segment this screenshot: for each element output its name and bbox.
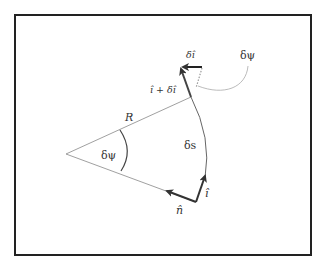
- figure-frame: [15, 15, 311, 255]
- label-normal: n̂: [176, 204, 183, 217]
- label-angle-center: δψ: [101, 149, 116, 162]
- label-arc-length: δs: [184, 139, 197, 152]
- diagram-canvas: R δψ δs î n̂ î + δî δî δψ: [0, 0, 321, 265]
- label-tangent-plus-delta: î + δî: [150, 84, 177, 95]
- label-delta-tangent: δî: [186, 49, 196, 60]
- label-radius: R: [124, 111, 133, 124]
- label-angle-callout: δψ: [240, 49, 255, 62]
